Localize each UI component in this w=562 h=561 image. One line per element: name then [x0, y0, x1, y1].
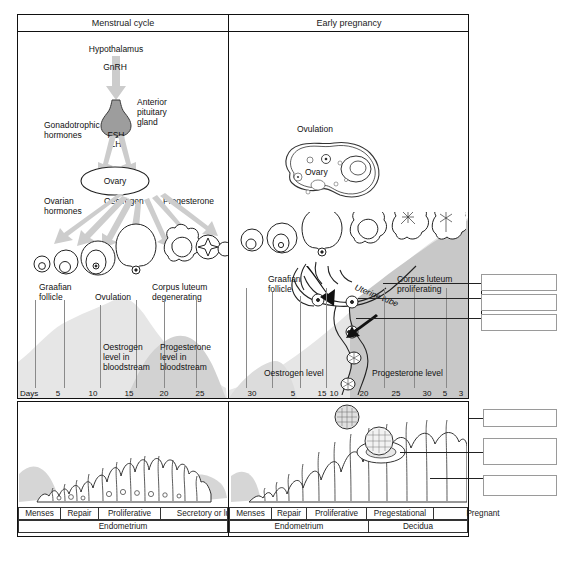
callout-box-2[interactable]: [481, 294, 557, 311]
corpus-luteum-degenerating-label: Corpus luteum degenerating: [152, 282, 207, 302]
oestrogen-level-bloodstream-label: Oestrogen level in bloodstream: [103, 342, 150, 372]
phase-row-left: MensesRepairProliferativeSecretory or lu…: [18, 507, 228, 520]
day-tick-3: 20: [154, 389, 174, 398]
tissue-label-endometrium-right: Endometrium: [230, 521, 369, 532]
anterior-pituitary-label: Anterior pituitary gland: [137, 97, 167, 127]
callout-box-5[interactable]: [483, 438, 557, 465]
header-early-pregnancy-label: Early pregnancy: [316, 18, 381, 28]
tissue-row-left: Endometrium: [18, 520, 228, 533]
phase-cell-right-4: Pregnant: [434, 508, 532, 519]
leader-line-l2: [64, 300, 65, 388]
ovary-label-right: Ovary: [305, 167, 328, 177]
ovulation-label-right: Ovulation: [297, 124, 333, 134]
callout-leader-2: [358, 298, 481, 299]
ovary-icon-right: [278, 137, 388, 211]
phase-cell-left-2: Proliferative: [99, 508, 161, 519]
phase-cell-right-1: Repair: [272, 508, 307, 519]
callout-leader-5: [400, 452, 483, 453]
endometrium-tissue-left: [19, 402, 227, 507]
ovary-label-left: Ovary: [80, 176, 150, 186]
callout-leader-1: [383, 283, 481, 284]
callout-box-4[interactable]: [483, 409, 557, 427]
days-axis-label: Days: [20, 389, 38, 398]
phase-cell-right-0: Menses: [230, 508, 272, 519]
progesterone-level-bloodstream-label: Progesterone level in bloodstream: [160, 342, 211, 372]
header-early-pregnancy: Early pregnancy: [230, 15, 468, 31]
day-tick-10: 25: [386, 389, 406, 398]
phase-cell-right-2: Proliferative: [307, 508, 367, 519]
callout-leader-3: [356, 318, 481, 319]
day-tick-1: 10: [83, 389, 103, 398]
day-tick-4: 25: [190, 389, 210, 398]
day-tick-11: 30: [417, 389, 437, 398]
phase-cell-left-0: Menses: [19, 508, 61, 519]
day-tick-9: 20: [354, 389, 374, 398]
day-tick-13: 3: [451, 389, 471, 398]
graafian-follicle-label-left: Graafian follicle: [39, 282, 72, 302]
tissue-row-right: Endometrium Decidua: [229, 520, 468, 533]
leader-line-r4: [326, 288, 327, 388]
day-tick-2: 15: [119, 389, 139, 398]
callout-leader-4: [469, 418, 483, 419]
tissue-label-endometrium-left: Endometrium: [19, 521, 227, 532]
phase-row-right: MensesRepairProliferativePregestationalP…: [229, 507, 468, 520]
gnrh-label: GnRH: [80, 62, 150, 72]
figure-root: Menstrual cycle Early pregnancy Hypothal…: [0, 0, 562, 561]
oestrogen-level-label-right: Oestrogen level: [264, 368, 324, 378]
leader-line-r7: [446, 288, 447, 388]
callout-leader-6: [430, 478, 483, 479]
header-menstrual-cycle-label: Menstrual cycle: [92, 18, 155, 28]
callout-box-1[interactable]: [481, 274, 557, 291]
header-menstrual-cycle: Menstrual cycle: [18, 15, 228, 31]
phase-cell-right-3: Pregestational: [367, 508, 434, 519]
leader-line-r1: [246, 288, 247, 388]
day-tick-6: 5: [283, 389, 303, 398]
day-tick-5: 30: [242, 389, 262, 398]
day-tick-8: 10: [324, 389, 344, 398]
callout-box-3[interactable]: [481, 314, 557, 331]
follicle-sequence-right: [238, 212, 466, 258]
leader-line-l1: [35, 300, 36, 388]
ovulation-label-left: Ovulation: [95, 292, 131, 302]
tissue-label-decidua: Decidua: [369, 521, 467, 532]
progesterone-level-label-right: Progesterone level: [372, 368, 443, 378]
follicle-sequence-left: [32, 222, 228, 278]
leader-line-l3: [100, 305, 101, 388]
day-tick-0: 5: [48, 389, 68, 398]
hypothalamus-label: Hypothalamus: [66, 44, 166, 54]
phase-cell-left-1: Repair: [61, 508, 99, 519]
callout-box-6[interactable]: [483, 475, 557, 496]
